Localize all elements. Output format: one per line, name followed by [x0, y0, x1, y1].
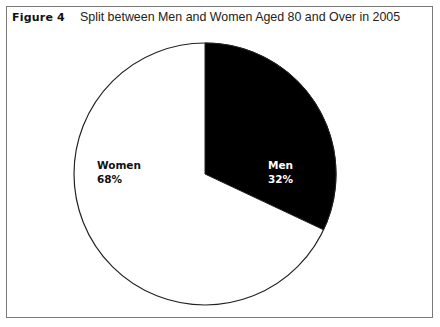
pie-chart: [0, 0, 440, 327]
men-percent: 32%: [268, 172, 293, 186]
women-name: Women: [97, 158, 141, 172]
women-percent: 68%: [97, 172, 141, 186]
women-label: Women 68%: [97, 158, 141, 186]
men-label: Men 32%: [268, 158, 293, 186]
men-name: Men: [268, 158, 293, 172]
